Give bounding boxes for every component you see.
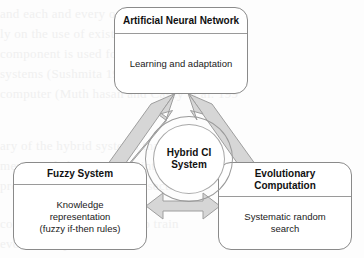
node-artificial-neural-network[interactable]: Artificial Neural Network Learning and a…: [114, 7, 248, 94]
diagram-canvas: and each and every one (1,2,3) can be ly…: [0, 0, 364, 258]
node-fuzzy-system[interactable]: Fuzzy System Knowledge representation (f…: [13, 162, 147, 250]
node-fuzzy-body-line-1: Knowledge: [19, 199, 141, 211]
node-ann-title-line-2: Network: [200, 15, 239, 26]
node-evo-title-line-1: Evolutionary: [255, 168, 316, 179]
hub-hybrid-ci-system[interactable]: Hybrid CI System: [145, 116, 233, 202]
node-evo-body-line-2: search: [224, 223, 346, 235]
node-evo-title-line-2: Computation: [254, 180, 316, 191]
node-evolutionary-computation[interactable]: Evolutionary Computation Systematic rand…: [218, 162, 352, 250]
node-ann-body: Learning and adaptation: [115, 34, 247, 93]
node-fuzzy-title-line-1: Fuzzy System: [47, 168, 113, 179]
node-ann-title: Artificial Neural Network: [115, 8, 247, 34]
node-ann-title-line-1: Artificial Neural: [123, 15, 197, 26]
node-fuzzy-body-line-3: (fuzzy if-then rules): [19, 223, 141, 235]
node-fuzzy-body-line-2: representation: [19, 211, 141, 223]
node-ann-body-line-1: Learning and adaptation: [120, 58, 242, 70]
node-fuzzy-body: Knowledge representation (fuzzy if-then …: [14, 185, 146, 249]
node-fuzzy-title: Fuzzy System: [14, 163, 146, 185]
hub-label: Hybrid CI System: [167, 147, 211, 171]
node-evo-body: Systematic random search: [219, 197, 351, 249]
node-evo-title: Evolutionary Computation: [219, 163, 351, 197]
node-evo-body-line-1: Systematic random: [224, 211, 346, 223]
hub-label-line-1: Hybrid CI: [167, 147, 211, 159]
hub-label-line-2: System: [167, 159, 211, 171]
